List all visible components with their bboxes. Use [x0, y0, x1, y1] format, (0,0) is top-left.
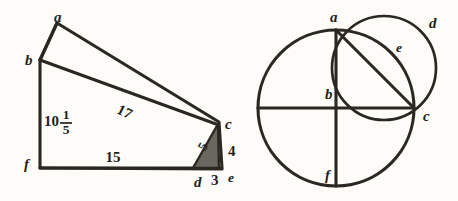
left-label-f: f [24, 156, 31, 172]
right-label-b: b [325, 86, 333, 102]
measure-b-c: 17 [114, 101, 135, 122]
measure-c-e: 4 [228, 143, 236, 159]
measure-b-f-denominator: 5 [63, 122, 70, 137]
left-figure: a b f d c e 10 1 5 17 15 5 4 3 [24, 9, 236, 190]
figure-plate: a b f d c e 10 1 5 17 15 5 4 3 [0, 0, 458, 201]
measure-b-f: 10 1 5 [44, 107, 72, 137]
right-label-c: c [423, 108, 430, 124]
right-label-a: a [330, 9, 338, 25]
measure-d-e: 3 [211, 172, 219, 188]
plate-canvas: a b f d c e 10 1 5 17 15 5 4 3 [0, 0, 458, 201]
right-label-d: d [429, 15, 437, 31]
measure-b-f-whole: 10 [44, 113, 59, 129]
measure-f-d: 15 [106, 149, 121, 165]
left-label-e: e [228, 170, 234, 185]
small-circle [332, 16, 436, 120]
right-label-e: e [396, 40, 402, 55]
edge-a-b [40, 23, 57, 60]
left-label-d: d [194, 174, 202, 190]
left-label-a: a [54, 9, 62, 25]
right-figure: a b c d e f [258, 9, 437, 186]
right-label-f: f [325, 167, 332, 183]
edge-f-d [40, 168, 222, 169]
measure-b-f-numerator: 1 [63, 107, 70, 122]
left-label-b: b [25, 52, 33, 68]
left-label-c: c [225, 116, 232, 132]
